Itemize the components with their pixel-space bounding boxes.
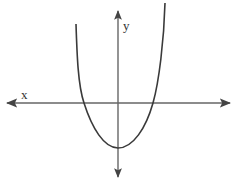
curve [76,3,165,148]
y-axis-label: y [123,18,130,33]
graph: x y [0,0,234,181]
x-axis-label: x [21,87,28,102]
